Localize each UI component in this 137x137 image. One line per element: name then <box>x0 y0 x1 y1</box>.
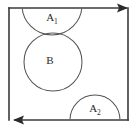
region-label-B: B <box>46 55 53 66</box>
region-curves-group <box>22 0 120 137</box>
region-label-A2-subscript: 2 <box>97 108 101 117</box>
region-label-A1-subscript: 1 <box>54 17 58 26</box>
square-boundary <box>9 8 128 120</box>
region-label-A2-text: A <box>89 102 97 114</box>
region-label-A2: A2 <box>89 103 101 117</box>
figure-container: A1 B A2 <box>0 0 137 137</box>
figure-canvas <box>0 0 137 137</box>
region-label-A1-text: A <box>46 11 54 23</box>
region-label-B-text: B <box>46 54 53 66</box>
region-label-A1: A1 <box>46 12 58 26</box>
